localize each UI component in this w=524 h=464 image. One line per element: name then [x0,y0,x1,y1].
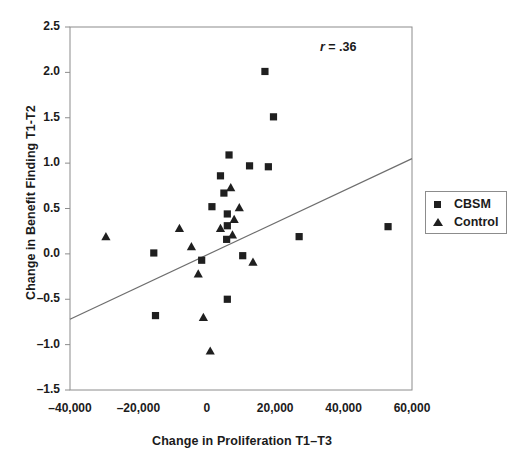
regression-line-group [70,159,412,320]
data-point-control [187,242,196,250]
y-axis-ticks [65,27,70,390]
data-point-cbsm [224,210,231,217]
regression-line [70,159,412,320]
data-point-cbsm [225,151,232,158]
series-cbsm-points [150,68,391,319]
x-tick-label: 0 [172,401,242,415]
data-point-control [199,313,208,321]
data-point-control [101,232,110,240]
correlation-value: = .36 [325,40,357,54]
data-point-control [228,230,237,238]
x-tick-label: 60,000 [377,401,447,415]
data-point-cbsm [261,68,268,75]
x-tick-label: –20,000 [103,401,173,415]
data-point-cbsm [239,252,246,259]
series-control-points [101,183,257,355]
data-point-cbsm [198,257,205,264]
data-point-cbsm [224,222,231,229]
triangle-marker-icon [432,216,444,228]
data-point-control [230,215,239,223]
y-tick-label: 0.0 [20,246,60,260]
data-point-cbsm [220,189,227,196]
data-point-cbsm [246,162,253,169]
data-point-cbsm [270,113,277,120]
y-tick-label: 0.5 [20,201,60,215]
data-point-cbsm [217,172,224,179]
y-tick-label: 1.0 [20,155,60,169]
data-point-cbsm [224,296,231,303]
y-tick-label: 1.5 [20,110,60,124]
y-tick-label: –1.5 [20,382,60,396]
y-tick-label: 2.5 [20,19,60,33]
data-point-control [226,183,235,191]
data-point-control [175,224,184,232]
y-tick-label: –1.0 [20,337,60,351]
y-tick-label: –0.5 [20,291,60,305]
data-point-control [248,257,257,265]
data-point-control [216,224,225,232]
legend-label-cbsm: CBSM [454,197,491,211]
x-axis-title: Change in Proliferation T1–T3 [152,434,332,448]
data-point-cbsm [296,233,303,240]
data-point-cbsm [384,223,391,230]
data-point-cbsm [152,312,159,319]
correlation-annotation: r = .36 [320,40,357,54]
data-point-control [206,346,215,354]
data-point-control [235,203,244,211]
y-tick-label: 2.0 [20,64,60,78]
legend-item-cbsm: CBSM [432,195,491,213]
data-point-cbsm [208,203,215,210]
data-point-control [194,269,203,277]
legend: CBSM Control [425,191,507,234]
data-point-cbsm [150,249,157,256]
legend-item-control: Control [432,213,498,231]
x-tick-label: 40,000 [309,401,379,415]
square-marker-icon [432,198,444,210]
data-point-cbsm [265,163,272,170]
legend-label-control: Control [454,215,498,229]
x-tick-label: 20,000 [240,401,310,415]
scatter-plot-figure: Change in Benefit Finding T1-T2 Change i… [0,0,524,464]
x-tick-label: –40,000 [35,401,105,415]
